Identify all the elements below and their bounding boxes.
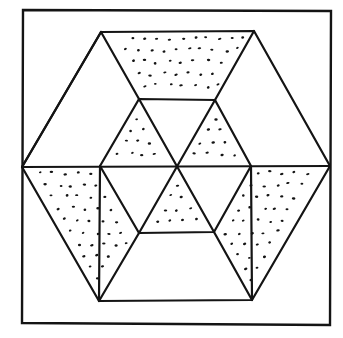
stipple-dot bbox=[78, 244, 81, 247]
edge-inner-right-to-bottom-right bbox=[251, 166, 252, 300]
edge-inner-left-to-bottom-left bbox=[99, 166, 100, 301]
stipple-dot bbox=[115, 244, 118, 246]
stipple-dot bbox=[285, 208, 288, 210]
stipple-dot bbox=[262, 185, 266, 187]
diagram-canvas bbox=[0, 0, 343, 338]
stipple-dot bbox=[140, 154, 143, 156]
stipple-dot bbox=[102, 243, 105, 245]
quilt-diagram bbox=[0, 0, 343, 338]
